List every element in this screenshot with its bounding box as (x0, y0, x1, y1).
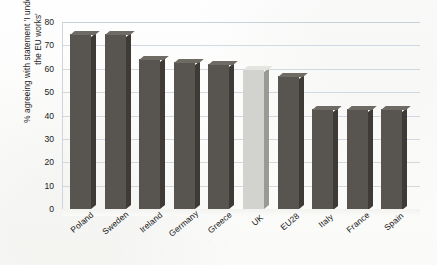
y-tick-label-70: 70 (44, 40, 54, 50)
bar-side-face (91, 33, 96, 209)
gridline-80 (62, 22, 420, 23)
bar-front-face (243, 69, 264, 209)
y-tick-label-50: 50 (44, 87, 54, 97)
x-axis-category-labels: PolandSwedenIrelandGermanyGreeceUKEU28It… (62, 213, 420, 261)
bar-uk[interactable] (243, 69, 264, 209)
x-axis-label-uk: UK (249, 212, 265, 227)
x-axis-label-poland: Poland (68, 210, 95, 235)
bar-poland[interactable] (70, 34, 91, 209)
bar-france[interactable] (347, 109, 368, 210)
bar-greece[interactable] (208, 64, 229, 209)
bar-front-face (381, 109, 402, 210)
y-tick-label-60: 60 (44, 64, 54, 74)
bar-side-face (126, 33, 131, 209)
x-axis-label-spain: Spain (382, 211, 405, 233)
bar-side-face (333, 108, 338, 209)
bar-spain[interactable] (381, 109, 402, 210)
bar-top-face (70, 31, 100, 35)
bar-eu28[interactable] (278, 76, 299, 209)
bar-top-face (243, 66, 273, 70)
bar-italy[interactable] (312, 109, 333, 210)
bar-top-face (312, 106, 342, 110)
y-tick-label-80: 80 (44, 17, 54, 27)
bar-top-face (174, 59, 204, 63)
bar-top-face (381, 106, 411, 110)
bar-front-face (278, 76, 299, 209)
bar-ireland[interactable] (139, 59, 160, 209)
bar-side-face (368, 108, 373, 209)
y-tick-label-10: 10 (44, 181, 54, 191)
y-tick-label-20: 20 (44, 157, 54, 167)
bar-germany[interactable] (174, 62, 195, 209)
plot-area (62, 22, 420, 209)
bar-side-face (402, 108, 407, 209)
bar-front-face (347, 109, 368, 210)
y-tick-label-40: 40 (44, 111, 54, 121)
bar-front-face (70, 34, 91, 209)
bar-top-face (347, 106, 377, 110)
bar-sweden[interactable] (105, 34, 126, 209)
x-axis-label-france: France (345, 210, 372, 235)
bar-front-face (174, 62, 195, 209)
x-axis-label-ireland: Ireland (137, 210, 164, 235)
bar-front-face (208, 64, 229, 209)
bar-top-face (105, 31, 135, 35)
bar-front-face (105, 34, 126, 209)
bar-side-face (299, 75, 304, 209)
bar-top-face (278, 73, 308, 77)
x-axis-label-italy: Italy (316, 212, 335, 230)
y-tick-label-0: 0 (49, 204, 54, 214)
x-axis-label-sweden: Sweden (100, 209, 130, 237)
bar-front-face (312, 109, 333, 210)
bar-chart: % agreeing with statement 'I understand … (0, 0, 437, 265)
bar-side-face (160, 58, 165, 209)
bar-side-face (195, 61, 200, 209)
x-axis-label-greece: Greece (206, 209, 234, 235)
x-axis-label-eu28: EU28 (279, 211, 302, 233)
bar-side-face (264, 68, 269, 209)
bar-side-face (229, 63, 234, 209)
bar-front-face (139, 59, 160, 209)
x-axis-label-germany: Germany (167, 208, 201, 238)
y-tick-label-30: 30 (44, 134, 54, 144)
y-axis-title: % agreeing with statement 'I understand … (22, 0, 44, 130)
